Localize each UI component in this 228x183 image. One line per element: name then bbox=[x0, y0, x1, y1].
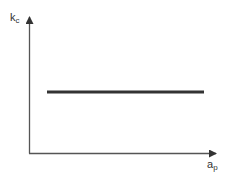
x-axis-label-subscript: p bbox=[213, 163, 217, 172]
diagram-canvas bbox=[0, 0, 228, 183]
x-axis-label: ap bbox=[207, 159, 218, 172]
y-axis-label: kc bbox=[10, 12, 20, 25]
y-axis-label-subscript: c bbox=[16, 16, 20, 25]
